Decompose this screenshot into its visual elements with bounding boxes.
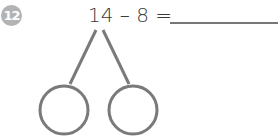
bond-line-left <box>70 30 96 84</box>
bond-line-right <box>103 30 129 84</box>
bond-part-circle-right[interactable] <box>109 86 157 134</box>
bond-part-circle-left[interactable] <box>40 86 88 134</box>
number-bond-diagram <box>0 0 278 136</box>
